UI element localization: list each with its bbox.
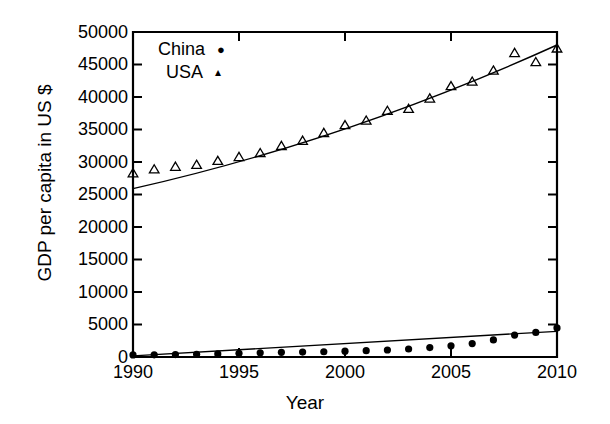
data-point-china: [469, 340, 476, 347]
data-point-china: [426, 344, 433, 351]
data-point-china: [299, 348, 306, 355]
chart-figure: GDP per capita in US $ Year 50000 45000 …: [0, 0, 610, 424]
data-point-usa: [510, 48, 520, 56]
data-point-usa: [531, 58, 541, 66]
data-point-china: [214, 350, 221, 357]
data-point-china: [151, 351, 158, 358]
data-point-china: [490, 336, 497, 343]
axis-frame: [133, 32, 557, 357]
data-point-china: [341, 348, 348, 355]
data-point-usa: [234, 152, 244, 160]
plot-canvas: [0, 0, 610, 424]
data-point-china: [320, 348, 327, 355]
data-point-usa: [340, 121, 350, 129]
data-point-china: [193, 351, 200, 358]
data-point-china: [363, 347, 370, 354]
data-point-china: [257, 349, 264, 356]
data-point-china: [511, 331, 518, 338]
data-point-china: [278, 349, 285, 356]
data-point-china: [235, 350, 242, 357]
data-point-china: [447, 342, 454, 349]
data-point-usa: [192, 160, 202, 168]
data-point-usa: [149, 165, 159, 173]
data-point-usa: [383, 106, 393, 114]
data-point-china: [384, 346, 391, 353]
data-point-usa: [213, 156, 223, 164]
data-point-usa: [446, 82, 456, 90]
data-point-china: [129, 351, 136, 358]
data-point-usa: [277, 141, 287, 149]
data-point-usa: [171, 162, 181, 170]
data-point-china: [532, 329, 539, 336]
data-point-china: [405, 345, 412, 352]
data-point-china: [553, 324, 560, 331]
data-point-china: [172, 351, 179, 358]
